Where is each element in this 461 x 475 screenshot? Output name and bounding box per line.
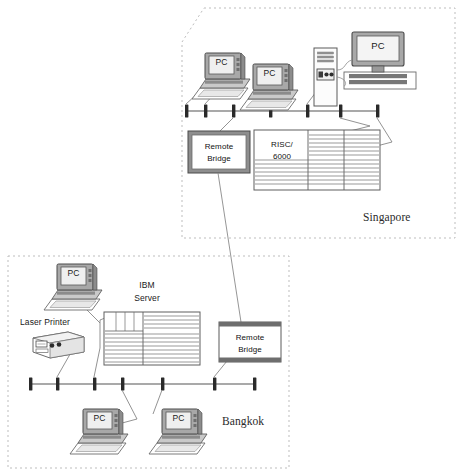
pc-2-label: PC [257, 69, 282, 79]
pc-4-label: PC [61, 269, 86, 279]
drop-cable-bridge-bkk [214, 361, 227, 377]
risc-server-label-line1: RISC/ [258, 140, 306, 149]
network-diagram: PC PC PC Remote Bridge RISC/ 6000 Singap… [0, 0, 461, 475]
node-tower-pc[interactable] [314, 48, 337, 106]
ibm-server-label-line2: Server [120, 294, 174, 304]
pc-6-label: PC [166, 414, 191, 424]
node-ibm-server[interactable] [104, 312, 200, 365]
remote-bridge-singapore-label-line1: Remote [192, 142, 246, 151]
remote-bridge-bangkok-label-line2: Bridge [220, 345, 280, 354]
region-singapore-label: Singapore [363, 211, 411, 224]
remote-bridge-singapore-label-line2: Bridge [192, 154, 246, 163]
region-bangkok-label: Bangkok [222, 415, 264, 428]
risc-server-label-line2: 6000 [258, 152, 306, 161]
node-remote-bridge-singapore[interactable] [188, 131, 250, 173]
drop-cable-pc6 [153, 390, 162, 414]
diagram-canvas [0, 0, 461, 475]
pc-1-label: PC [209, 58, 234, 68]
wan-link-line [218, 173, 241, 322]
ibm-server-label-line1: IBM [120, 281, 174, 291]
laser-printer-label: Laser Printer [20, 318, 104, 328]
pc-5-label: PC [87, 414, 112, 424]
remote-bridge-bangkok-label-line1: Remote [220, 333, 280, 342]
drop-cable-bridge-sg [219, 118, 233, 132]
node-laser-printer[interactable] [33, 332, 84, 358]
drop-cable-risc-b [340, 118, 370, 131]
pc-3-label: PC [357, 41, 399, 52]
